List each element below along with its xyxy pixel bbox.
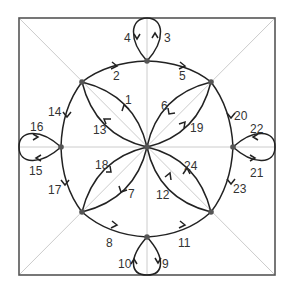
- edge-11: [147, 212, 211, 237]
- label-21: 21: [250, 166, 264, 180]
- edge-8: [82, 212, 147, 237]
- label-22: 22: [250, 122, 264, 136]
- label-1: 1: [125, 93, 132, 107]
- label-13: 13: [93, 123, 107, 137]
- node-right: [230, 144, 236, 150]
- node-center: [144, 144, 150, 150]
- label-23: 23: [233, 182, 247, 196]
- node-top-left: [79, 79, 85, 85]
- label-14: 14: [48, 105, 62, 119]
- label-10: 10: [118, 257, 132, 271]
- arrow-16: [33, 134, 38, 140]
- label-19: 19: [190, 121, 204, 135]
- edge-23: [211, 147, 233, 212]
- graph-diagram: 1 2 3 4 5 6 7 8 9 10 11 12 13 14 15 16 1…: [0, 0, 292, 293]
- label-16: 16: [30, 120, 44, 134]
- node-left: [58, 144, 64, 150]
- arrow-3: [152, 33, 158, 38]
- label-11: 11: [178, 236, 191, 250]
- node-top: [144, 58, 150, 64]
- edge-20: [211, 82, 233, 147]
- label-4: 4: [124, 31, 131, 45]
- arrow-8: [111, 221, 117, 228]
- label-3: 3: [164, 31, 171, 45]
- label-17: 17: [48, 183, 62, 197]
- label-9: 9: [162, 257, 169, 271]
- label-20: 20: [234, 109, 248, 123]
- arrow-11: [179, 221, 185, 228]
- label-12: 12: [156, 188, 170, 202]
- label-8: 8: [106, 236, 113, 250]
- label-6: 6: [161, 99, 168, 113]
- node-top-right: [208, 79, 214, 85]
- node-bottom-left: [79, 209, 85, 215]
- arrow-12: [165, 173, 171, 180]
- label-18: 18: [95, 158, 109, 172]
- label-15: 15: [29, 164, 43, 178]
- label-24: 24: [184, 159, 198, 173]
- edge-17: [61, 147, 82, 212]
- label-7: 7: [128, 187, 135, 201]
- arrow-4: [134, 34, 140, 39]
- node-bottom: [144, 234, 150, 240]
- arrow-19: [179, 122, 185, 128]
- label-2: 2: [113, 69, 120, 83]
- node-bottom-right: [208, 209, 214, 215]
- label-5: 5: [179, 69, 186, 83]
- arrow-6: [168, 108, 175, 114]
